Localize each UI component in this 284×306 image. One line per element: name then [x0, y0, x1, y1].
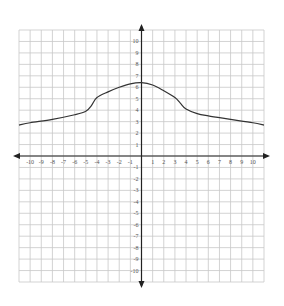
x-tick-label: 9	[240, 159, 243, 165]
x-tick-label: 4	[185, 159, 188, 165]
x-tick-label: -9	[39, 159, 44, 165]
y-tick-label: 1	[136, 142, 139, 148]
y-tick-label: -9	[134, 256, 139, 262]
x-tick-label: 2	[162, 159, 165, 165]
y-tick-label: 2	[136, 130, 139, 136]
y-tick-label: 5	[136, 96, 139, 102]
x-tick-label: -2	[117, 159, 122, 165]
y-tick-label: 3	[136, 119, 139, 125]
x-tick-label: -7	[61, 159, 66, 165]
x-axis-right-arrow-icon	[263, 153, 270, 159]
y-tick-label: 10	[133, 38, 139, 44]
x-tick-label: 1	[151, 159, 154, 165]
x-tick-label: -8	[50, 159, 55, 165]
y-tick-label: 7	[136, 73, 139, 79]
x-tick-label: 8	[229, 159, 232, 165]
x-tick-label: 5	[196, 159, 199, 165]
y-tick-label: 4	[136, 107, 139, 113]
x-tick-label: -3	[106, 159, 111, 165]
y-tick-label: -8	[134, 245, 139, 251]
y-tick-label: 9	[136, 50, 139, 56]
y-axis-down-arrow-icon	[139, 281, 145, 288]
y-tick-label: 8	[136, 61, 139, 67]
x-tick-label: 6	[207, 159, 210, 165]
x-tick-label: -10	[26, 159, 34, 165]
x-tick-label: 3	[173, 159, 176, 165]
x-tick-label: 7	[218, 159, 221, 165]
x-tick-label: 10	[250, 159, 256, 165]
y-tick-label: -3	[134, 187, 139, 193]
y-tick-label: -10	[131, 268, 139, 274]
x-tick-label: -4	[94, 159, 99, 165]
y-tick-label: -5	[134, 210, 139, 216]
y-tick-label: -2	[134, 176, 139, 182]
y-tick-label: 6	[136, 84, 139, 90]
coordinate-plane: -10-9-8-7-6-5-4-3-2-112345678910-10-9-8-…	[0, 0, 284, 306]
y-tick-label: -6	[134, 222, 139, 228]
x-tick-label: -5	[83, 159, 88, 165]
x-axis-left-arrow-icon	[13, 153, 20, 159]
x-tick-label: -6	[72, 159, 77, 165]
y-tick-label: -4	[134, 199, 139, 205]
y-tick-label: -7	[134, 233, 139, 239]
x-tick-label: -1	[128, 159, 133, 165]
y-tick-label: -1	[134, 164, 139, 170]
y-axis-up-arrow-icon	[139, 24, 145, 31]
